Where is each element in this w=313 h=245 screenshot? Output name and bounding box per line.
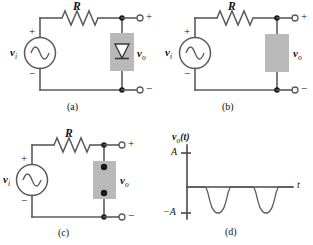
y-label-bottom-d: −A (163, 207, 176, 217)
node-dot-c-block-top (101, 164, 107, 170)
circuit-a-svg (0, 0, 157, 123)
output-plus-c: + (128, 138, 134, 149)
panel-b: vi + − R vo + − (b) (157, 0, 313, 123)
y-label-top-d: A (171, 147, 177, 157)
resistor-c (54, 138, 90, 152)
circuit-b-svg (157, 0, 313, 123)
resistor-b (217, 11, 253, 25)
source-minus-b: − (184, 68, 190, 79)
output-label-a: vo (137, 48, 146, 62)
output-minus-a: − (146, 83, 152, 94)
terminal-a-plus[interactable] (137, 15, 143, 21)
output-plus-b: + (301, 11, 307, 22)
source-plus-c: + (21, 153, 27, 164)
source-minus-a: − (29, 68, 35, 79)
figure-root: vi + − R vo + − (a) vi + − (0, 0, 313, 245)
resistor-label-a: R (73, 1, 81, 13)
output-plus-a: + (146, 11, 152, 22)
panel-a: vi + − R vo + − (a) (0, 0, 157, 123)
source-plus-b: + (184, 26, 190, 37)
waveform-path-d (187, 187, 293, 213)
shade-box-b (265, 34, 289, 72)
terminal-b-minus[interactable] (292, 87, 298, 93)
terminal-c-minus[interactable] (119, 214, 125, 220)
caption-b: (b) (222, 102, 234, 112)
panel-d: vo(t) A −A t (d) (157, 123, 313, 245)
panel-c: vi + − R vo + − (c) (0, 123, 157, 245)
source-label-c: vi (3, 174, 10, 188)
source-minus-c: − (21, 195, 27, 206)
caption-a: (a) (67, 102, 78, 112)
caption-d: (d) (225, 227, 237, 237)
node-dot-c-block-bottom (101, 190, 107, 196)
output-label-c: vo (120, 175, 129, 189)
output-label-b: vo (293, 48, 302, 62)
x-label-d: t (297, 180, 300, 190)
terminal-b-plus[interactable] (292, 15, 298, 21)
source-label-b: vi (165, 47, 172, 61)
resistor-label-b: R (228, 1, 236, 13)
terminal-a-minus[interactable] (137, 87, 143, 93)
source-plus-a: + (29, 26, 35, 37)
output-minus-b: − (301, 83, 307, 94)
source-label-a: vi (10, 47, 17, 61)
caption-c: (c) (58, 228, 69, 238)
plot-title-d: vo(t) (172, 132, 190, 145)
terminal-c-plus[interactable] (119, 142, 125, 148)
output-minus-c: − (128, 210, 134, 221)
resistor-label-c: R (65, 128, 73, 140)
resistor-a (62, 11, 98, 25)
